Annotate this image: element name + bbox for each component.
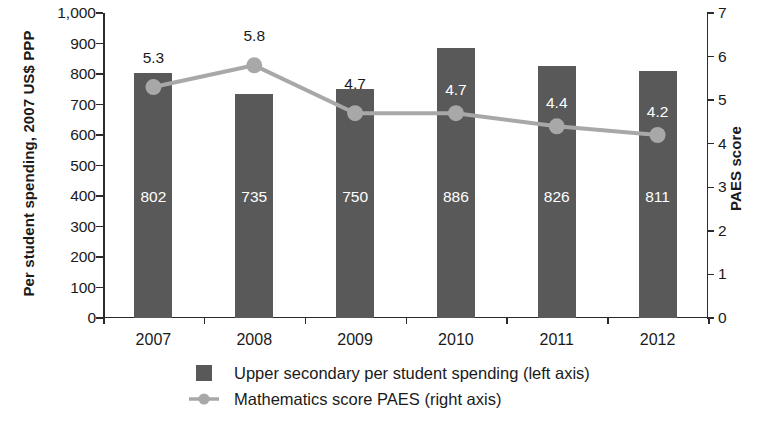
y-tick-right	[707, 187, 714, 189]
line-series	[103, 13, 708, 318]
y-tick-left	[96, 43, 103, 45]
legend-label-bars: Upper secondary per student spending (le…	[234, 364, 590, 383]
x-tick	[708, 317, 710, 324]
y-tick-right	[707, 56, 714, 58]
y-tick-label-left: 1,000	[6, 5, 96, 21]
chart-container: Per student spending, 2007 US$ PPP PAES …	[0, 0, 775, 425]
y-tick-left	[96, 73, 103, 75]
x-tick-label: 2012	[613, 331, 703, 349]
y-tick-label-left: 300	[6, 219, 96, 235]
legend-square-swatch-icon	[196, 365, 212, 381]
y-tick-label-left: 700	[6, 97, 96, 113]
x-tick	[305, 317, 307, 324]
y-tick-right	[707, 143, 714, 145]
y-tick-label-right: 2	[718, 223, 758, 239]
y-tick-label-left: 800	[6, 66, 96, 82]
legend-label-line: Mathematics score PAES (right axis)	[234, 390, 501, 409]
legend-line-circle-icon	[189, 391, 219, 407]
line-value-label: 4.2	[618, 103, 698, 121]
y-tick-label-right: 7	[718, 5, 758, 21]
plot-area: 01002003004005006007008009001,000 012345…	[103, 13, 708, 318]
y-tick-label-left: 500	[6, 158, 96, 174]
line-marker[interactable]	[448, 105, 464, 121]
y-tick-right	[707, 99, 714, 101]
x-tick-label: 2010	[411, 331, 501, 349]
x-tick-label: 2008	[209, 331, 299, 349]
y-tick-left	[96, 287, 103, 289]
y-tick-label-left: 400	[6, 188, 96, 204]
legend-item-line[interactable]: Mathematics score PAES (right axis)	[0, 386, 775, 412]
legend-item-bars[interactable]: Upper secondary per student spending (le…	[0, 360, 775, 386]
y-tick-label-right: 6	[718, 49, 758, 65]
y-tick-left	[96, 317, 103, 319]
y-tick-left	[96, 165, 103, 167]
line-marker[interactable]	[246, 57, 262, 73]
line-value-label: 4.4	[517, 94, 597, 112]
y-tick-left	[96, 134, 103, 136]
y-tick-right	[707, 12, 714, 14]
line-value-label: 4.7	[416, 81, 496, 99]
line-value-label: 4.7	[315, 75, 395, 93]
line-value-label: 5.8	[214, 27, 294, 45]
y-tick-label-left: 100	[6, 280, 96, 296]
y-tick-left	[96, 256, 103, 258]
y-tick-label-right: 3	[718, 179, 758, 195]
line-marker[interactable]	[650, 127, 666, 143]
x-tick-label: 2007	[108, 331, 198, 349]
y-tick-right	[707, 274, 714, 276]
y-tick-label-right: 1	[718, 266, 758, 282]
y-tick-label-left: 200	[6, 249, 96, 265]
y-tick-label-right: 0	[718, 310, 758, 326]
y-tick-left	[96, 195, 103, 197]
y-tick-label-left: 600	[6, 127, 96, 143]
y-tick-label-left: 900	[6, 36, 96, 52]
y-tick-label-right: 5	[718, 92, 758, 108]
line-marker[interactable]	[549, 118, 565, 134]
y-tick-left	[96, 226, 103, 228]
legend: Upper secondary per student spending (le…	[0, 360, 775, 412]
x-tick	[204, 317, 206, 324]
line-value-label: 5.3	[113, 49, 193, 67]
x-tick-label: 2009	[310, 331, 400, 349]
y-tick-left	[96, 104, 103, 106]
y-tick-label-right: 4	[718, 136, 758, 152]
x-tick	[406, 317, 408, 324]
x-tick	[103, 317, 105, 324]
line-marker[interactable]	[347, 105, 363, 121]
line-marker[interactable]	[145, 79, 161, 95]
x-tick-label: 2011	[512, 331, 602, 349]
y-tick-label-left: 0	[6, 310, 96, 326]
x-tick	[607, 317, 609, 324]
y-tick-left	[96, 12, 103, 14]
x-tick	[506, 317, 508, 324]
y-tick-right	[707, 230, 714, 232]
